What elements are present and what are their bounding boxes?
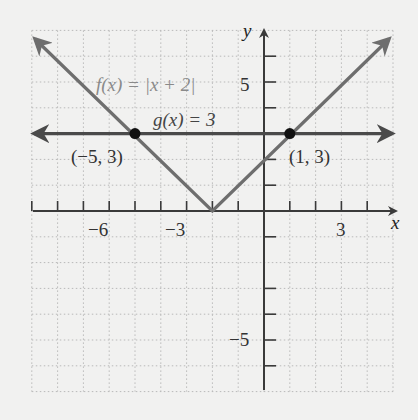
point-label-left: (−5, 3)	[71, 146, 123, 168]
graph-figure: y x f(x) = |x + 2| g(x) = 3 (−5, 3) (1, …	[0, 0, 418, 420]
coordinate-plane: y x f(x) = |x + 2| g(x) = 3 (−5, 3) (1, …	[0, 0, 418, 420]
x-tick-label-neg3: −3	[165, 219, 185, 240]
point-label-right: (1, 3)	[289, 146, 330, 168]
f-label: f(x) = |x + 2|	[96, 74, 195, 96]
x-axis-label: x	[390, 212, 400, 233]
x-tick-label-neg6: −6	[88, 219, 108, 240]
intersection-point-left	[130, 128, 141, 139]
y-tick-label-5: 5	[240, 74, 250, 95]
g-label: g(x) = 3	[153, 109, 215, 131]
y-axis-label: y	[241, 20, 252, 41]
x-tick-label-3: 3	[336, 219, 346, 240]
intersection-point-right	[284, 128, 295, 139]
y-tick-label-neg5: −5	[229, 329, 249, 350]
